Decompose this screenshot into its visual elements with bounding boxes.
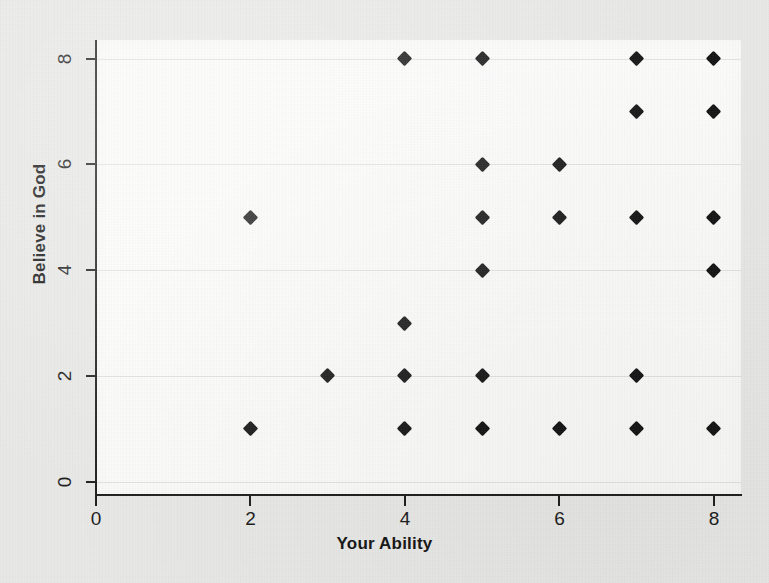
data-point [706, 421, 722, 437]
x-tick-label-6: 6 [539, 508, 579, 530]
x-tick-label-4: 4 [385, 508, 425, 530]
data-point [474, 51, 490, 67]
data-point [474, 262, 490, 278]
data-point [552, 209, 568, 225]
plot-area [96, 40, 741, 495]
data-point [474, 421, 490, 437]
y-tick-6 [86, 163, 96, 165]
data-point [397, 315, 413, 331]
y-tick-4 [86, 269, 96, 271]
y-tick-0 [86, 481, 96, 483]
data-point [629, 104, 645, 120]
data-point [474, 157, 490, 173]
data-point [243, 209, 259, 225]
y-tick-label-4: 4 [54, 257, 76, 283]
data-point [552, 157, 568, 173]
y-tick-label-wrap-4: 4 [52, 257, 78, 283]
data-point [243, 421, 259, 437]
y-tick-label-6: 6 [54, 151, 76, 177]
y-tick-label-8: 8 [54, 46, 76, 72]
data-point [320, 368, 336, 384]
x-tick-4 [404, 496, 406, 506]
y-tick-label-2: 2 [54, 363, 76, 389]
y-tick-label-0: 0 [54, 469, 76, 495]
data-point [397, 421, 413, 437]
y-axis-title: Believe in God [30, 124, 50, 324]
y-tick-label-wrap-8: 8 [52, 46, 78, 72]
data-points-layer [96, 40, 741, 495]
data-point [552, 421, 568, 437]
x-tick-label-8: 8 [694, 508, 734, 530]
x-tick-8 [713, 496, 715, 506]
data-point [706, 262, 722, 278]
scatter-plot-figure: 02468 02468 Your Ability Believe in God [0, 0, 769, 583]
x-tick-2 [249, 496, 251, 506]
y-tick-label-wrap-6: 6 [52, 151, 78, 177]
x-axis-title: Your Ability [0, 534, 769, 554]
data-point [629, 421, 645, 437]
data-point [397, 51, 413, 67]
data-point [397, 368, 413, 384]
data-point [629, 209, 645, 225]
data-point [706, 51, 722, 67]
x-tick-label-2: 2 [230, 508, 270, 530]
y-tick-label-wrap-0: 0 [52, 469, 78, 495]
y-tick-2 [86, 375, 96, 377]
data-point [706, 209, 722, 225]
data-point [706, 104, 722, 120]
data-point [474, 368, 490, 384]
data-point [629, 368, 645, 384]
y-tick-label-wrap-2: 2 [52, 363, 78, 389]
data-point [629, 51, 645, 67]
x-tick-0 [95, 496, 97, 506]
x-tick-label-0: 0 [76, 508, 116, 530]
y-tick-8 [86, 58, 96, 60]
x-tick-6 [558, 496, 560, 506]
data-point [474, 209, 490, 225]
